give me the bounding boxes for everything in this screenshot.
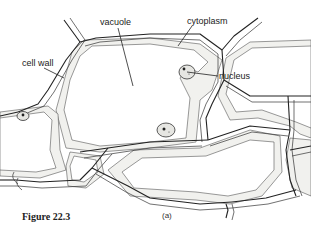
label-vacuole: vacuole: [100, 17, 131, 27]
leader-cell-wall: [44, 68, 64, 78]
label-cell-wall: cell wall: [22, 58, 54, 68]
nucleus-center: [157, 123, 175, 137]
panel-label: (a): [162, 211, 172, 220]
figure-caption: Figure 22.3: [22, 211, 70, 222]
label-nucleus: nucleus: [219, 71, 251, 81]
label-cytoplasm: cytoplasm: [187, 16, 228, 26]
plant-cell-diagram: cell wall vacuole cytoplasm nucleus Figu…: [0, 0, 311, 239]
